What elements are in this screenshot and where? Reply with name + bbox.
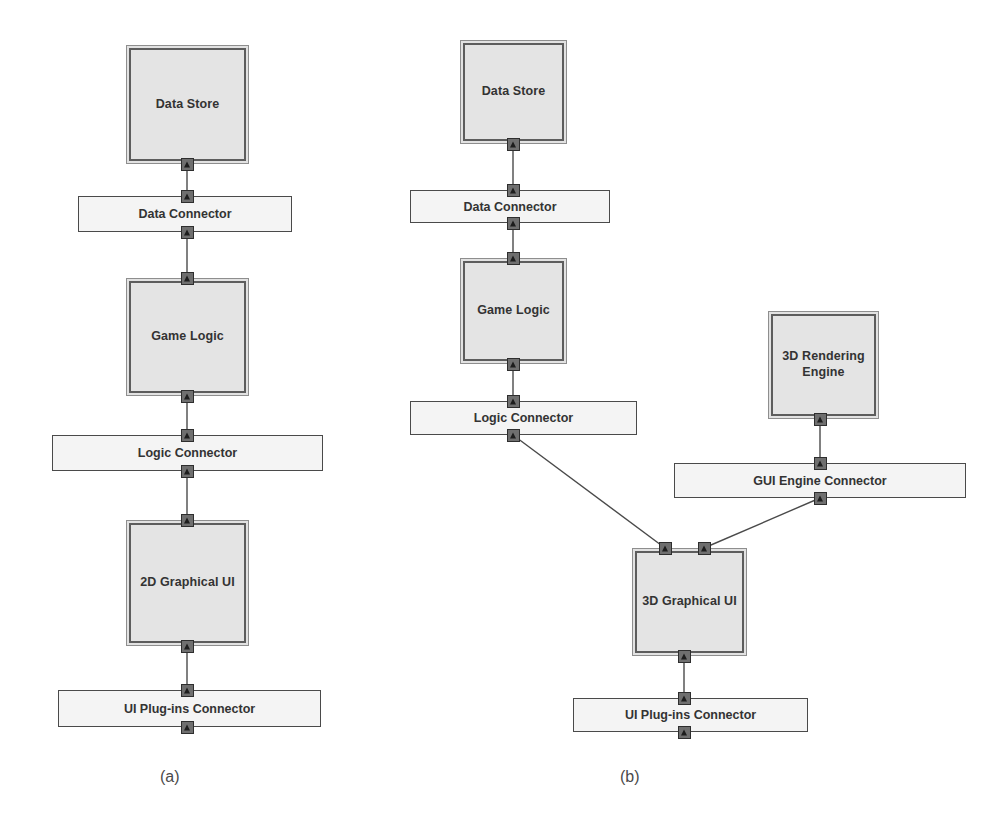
b-3d-graphical-ui-port-top-1[interactable] — [659, 542, 672, 555]
diagram-canvas: Data StoreData ConnectorGame LogicLogic … — [0, 0, 1007, 832]
b-data-connector-port-bottom-2[interactable] — [507, 217, 520, 230]
a-2d-graphical-ui-label: 2D Graphical UI — [136, 575, 239, 591]
b-logic-connector[interactable]: Logic Connector — [410, 401, 637, 435]
b-3d-rendering-engine-inner: 3D Rendering Engine — [771, 314, 876, 416]
a-data-store-label: Data Store — [152, 97, 224, 113]
b-3d-rendering-engine-port-bottom-1[interactable] — [814, 413, 827, 426]
connector-line-b-gui-engine-connector-to-b-3d-graphical-ui — [704, 498, 820, 548]
a-ui-plugins-connector-label: UI Plug-ins Connector — [124, 702, 255, 716]
b-3d-rendering-engine[interactable]: 3D Rendering Engine — [768, 311, 879, 419]
a-game-logic-label: Game Logic — [147, 329, 228, 345]
a-game-logic[interactable]: Game Logic — [126, 278, 249, 396]
b-3d-graphical-ui-inner: 3D Graphical UI — [635, 551, 744, 653]
a-data-connector-port-bottom-2[interactable] — [181, 226, 194, 239]
b-logic-connector-label: Logic Connector — [474, 411, 573, 425]
panel-caption-b: (b) — [620, 768, 640, 786]
b-data-store-port-bottom-1[interactable] — [507, 138, 520, 151]
b-3d-graphical-ui-port-top-2[interactable] — [698, 542, 711, 555]
b-ui-plugins-connector-port-bottom-2[interactable] — [678, 726, 691, 739]
b-logic-connector-port-top-1[interactable] — [507, 395, 520, 408]
a-2d-graphical-ui[interactable]: 2D Graphical UI — [126, 520, 249, 646]
b-ui-plugins-connector-label: UI Plug-ins Connector — [625, 708, 756, 722]
b-game-logic-label: Game Logic — [473, 303, 554, 319]
a-game-logic-inner: Game Logic — [129, 281, 246, 393]
a-2d-graphical-ui-inner: 2D Graphical UI — [129, 523, 246, 643]
b-3d-graphical-ui-label: 3D Graphical UI — [638, 594, 741, 610]
b-3d-graphical-ui[interactable]: 3D Graphical UI — [632, 548, 747, 656]
a-game-logic-port-top-1[interactable] — [181, 272, 194, 285]
b-gui-engine-connector-port-bottom-2[interactable] — [814, 492, 827, 505]
a-data-connector-port-top-1[interactable] — [181, 190, 194, 203]
a-2d-graphical-ui-port-top-1[interactable] — [181, 514, 194, 527]
b-3d-rendering-engine-label: 3D Rendering Engine — [778, 349, 868, 380]
b-logic-connector-port-bottom-2[interactable] — [507, 429, 520, 442]
a-data-connector-label: Data Connector — [138, 207, 231, 221]
b-gui-engine-connector-label: GUI Engine Connector — [753, 474, 886, 488]
b-data-store-label: Data Store — [478, 84, 550, 100]
a-ui-plugins-connector-port-bottom-2[interactable] — [181, 721, 194, 734]
b-data-connector-label: Data Connector — [463, 200, 556, 214]
b-ui-plugins-connector-port-top-1[interactable] — [678, 692, 691, 705]
b-game-logic-port-bottom-2[interactable] — [507, 358, 520, 371]
connector-line-b-logic-connector-to-b-3d-graphical-ui — [513, 435, 665, 548]
b-game-logic[interactable]: Game Logic — [460, 258, 567, 364]
a-data-store[interactable]: Data Store — [126, 45, 249, 164]
b-game-logic-inner: Game Logic — [463, 261, 564, 361]
b-gui-engine-connector-port-top-1[interactable] — [814, 457, 827, 470]
a-logic-connector-port-bottom-2[interactable] — [181, 465, 194, 478]
b-data-store-inner: Data Store — [463, 43, 564, 141]
b-data-store[interactable]: Data Store — [460, 40, 567, 144]
b-3d-graphical-ui-port-bottom-3[interactable] — [678, 650, 691, 663]
b-data-connector-port-top-1[interactable] — [507, 184, 520, 197]
a-logic-connector-label: Logic Connector — [138, 446, 237, 460]
a-data-store-inner: Data Store — [129, 48, 246, 161]
panel-caption-a: (a) — [160, 768, 180, 786]
b-game-logic-port-top-1[interactable] — [507, 252, 520, 265]
a-logic-connector-port-top-1[interactable] — [181, 429, 194, 442]
b-ui-plugins-connector[interactable]: UI Plug-ins Connector — [573, 698, 808, 732]
a-data-store-port-bottom-1[interactable] — [181, 158, 194, 171]
a-2d-graphical-ui-port-bottom-2[interactable] — [181, 640, 194, 653]
a-ui-plugins-connector-port-top-1[interactable] — [181, 684, 194, 697]
a-game-logic-port-bottom-2[interactable] — [181, 390, 194, 403]
